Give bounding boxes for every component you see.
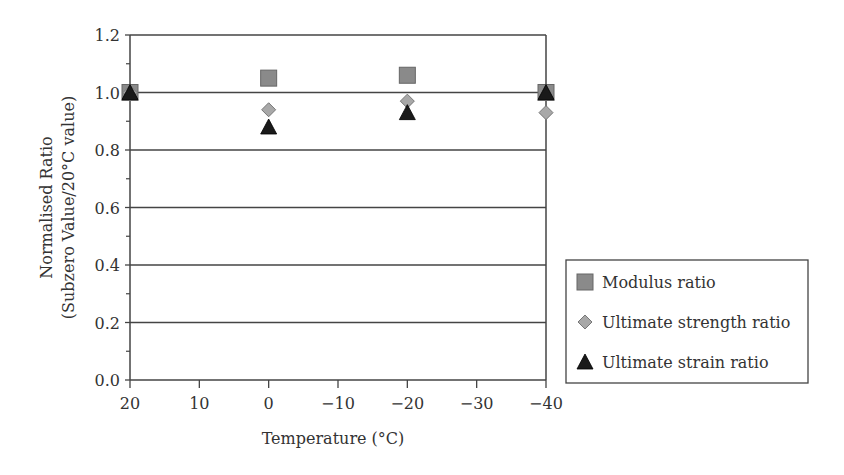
scatter-chart: 0.00.20.40.60.81.01.220100−10−20−30−40Te… (0, 0, 844, 475)
y-tick-label: 1.2 (95, 26, 120, 45)
data-point-square (399, 67, 415, 83)
x-tick-label: −40 (529, 394, 563, 413)
x-tick-label: 10 (189, 394, 209, 413)
y-tick-label: 0.2 (95, 314, 120, 333)
x-tick-label: −30 (460, 394, 494, 413)
y-tick-label: 0.4 (95, 256, 120, 275)
y-tick-label: 1.0 (95, 84, 120, 103)
y-axis-label-line1: Normalised Ratio (37, 136, 56, 278)
x-tick-label: 20 (120, 394, 140, 413)
x-tick-label: −10 (321, 394, 355, 413)
y-axis-label-line2: (Subzero Value/20°C value) (59, 96, 78, 319)
legend-label: Ultimate strength ratio (602, 313, 790, 332)
chart-figure: 0.00.20.40.60.81.01.220100−10−20−30−40Te… (0, 0, 844, 475)
y-tick-label: 0.8 (95, 141, 120, 160)
x-tick-label: 0 (264, 394, 274, 413)
y-tick-label: 0.0 (95, 371, 120, 390)
data-point-diamond (262, 103, 276, 117)
x-tick-label: −20 (390, 394, 424, 413)
data-point-triangle (261, 119, 277, 134)
legend-label: Modulus ratio (602, 273, 716, 292)
data-point-triangle (399, 105, 415, 120)
legend-label: Ultimate strain ratio (602, 353, 769, 372)
legend-square-icon (577, 274, 593, 290)
x-axis-label: Temperature (°C) (262, 429, 405, 448)
data-point-diamond (539, 106, 553, 120)
data-point-square (261, 70, 277, 86)
y-tick-label: 0.6 (95, 199, 120, 218)
